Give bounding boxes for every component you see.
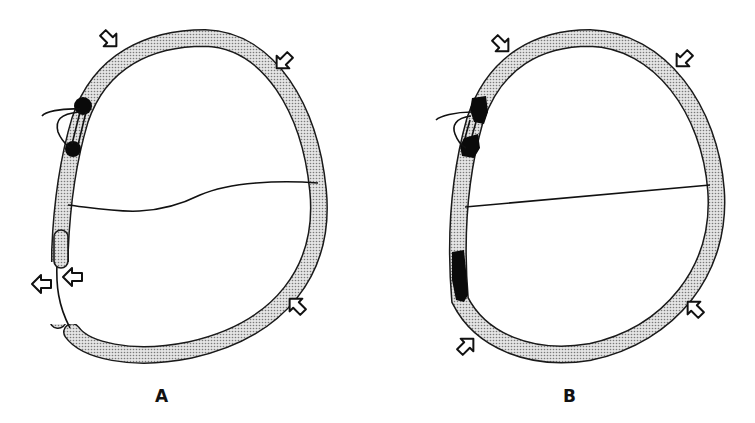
panel-b [436, 32, 716, 359]
panel-a [32, 27, 319, 355]
arrow-icon [97, 27, 123, 53]
panel-b-label: B [563, 386, 576, 406]
panel-a-interior-line [68, 182, 318, 211]
panel-a-wall-gap [48, 262, 78, 324]
panel-a-label: A [155, 386, 168, 406]
panel-b-interior-line [465, 185, 710, 207]
panel-a-chamber-wall [58, 38, 319, 355]
arrow-icon [454, 332, 480, 358]
diagram-canvas [0, 0, 755, 423]
panel-a-wall-end-upper [54, 230, 68, 268]
